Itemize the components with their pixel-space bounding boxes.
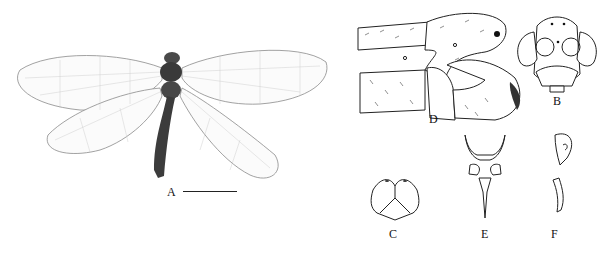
terminalia-drawing [355, 10, 525, 120]
panel-c: C [365, 168, 425, 248]
panel-d: D [355, 10, 525, 120]
panel-a: A [0, 0, 340, 254]
specimen-habitus-image [0, 0, 340, 254]
panel-e: E [455, 130, 515, 250]
panel-label-a: A [167, 185, 176, 200]
panel-label-c: C [389, 227, 397, 242]
panel-label-b: B [553, 94, 561, 109]
panel-b: B [512, 14, 602, 114]
panel-label-d: D [429, 112, 438, 127]
scale-bar [183, 191, 237, 192]
panel-label-e: E [481, 227, 488, 242]
panel-label-f: F [551, 227, 558, 242]
panel-f: F [545, 130, 585, 250]
